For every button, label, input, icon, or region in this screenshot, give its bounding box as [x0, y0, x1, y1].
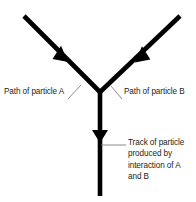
product-label-line-2: produced by [128, 148, 194, 159]
leader-line-particle-b [111, 86, 122, 99]
leader-line-particle-a [68, 85, 81, 99]
product-label-line-3: interaction of A [128, 160, 194, 171]
label-path-of-particle-a: Path of particle A [4, 86, 64, 97]
label-track-of-produced-particle: Track of particle produced by interactio… [128, 137, 194, 183]
particle-interaction-diagram: Path of particle A Path of particle B Tr… [0, 0, 196, 202]
label-path-of-particle-b: Path of particle B [124, 86, 185, 97]
product-label-line-4: and B [128, 171, 194, 182]
product-label-line-1: Track of particle [128, 137, 194, 148]
arrowhead-down-icon [92, 130, 108, 143]
